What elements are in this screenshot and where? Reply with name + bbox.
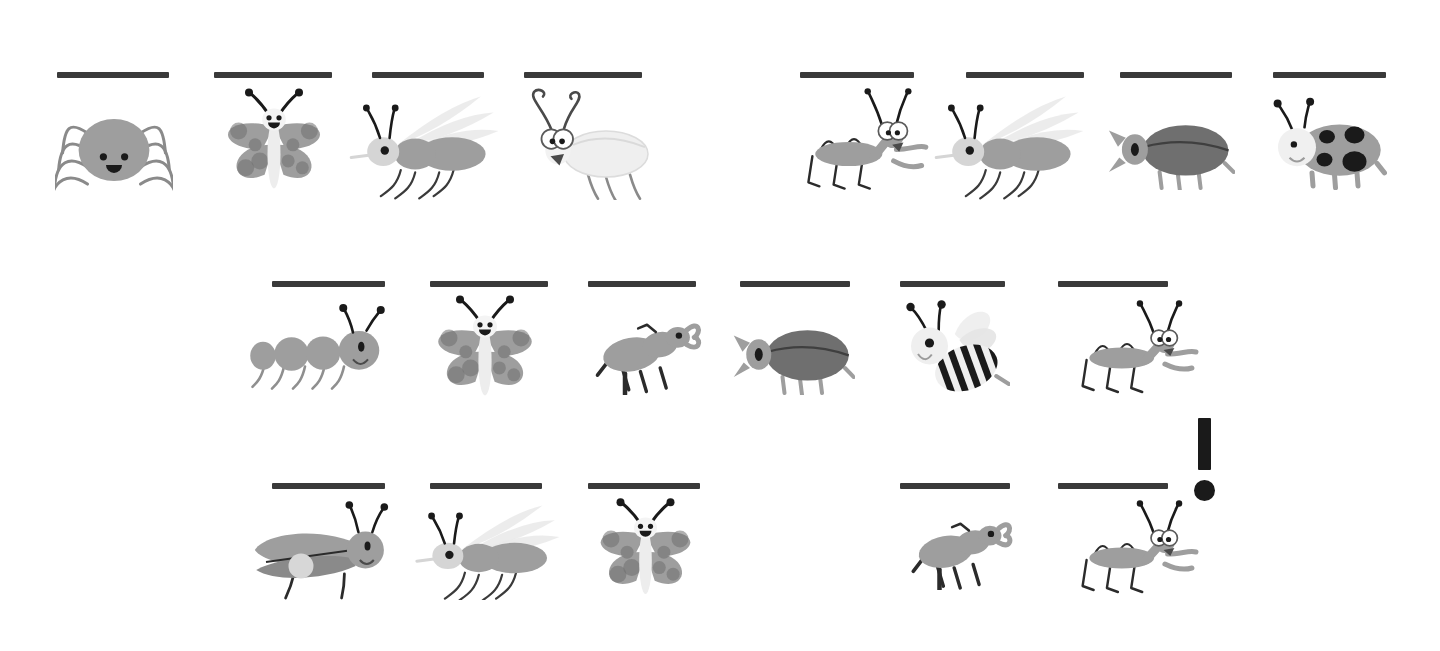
mosquito-illustration bbox=[925, 85, 1085, 200]
answer-blank-line[interactable] bbox=[430, 483, 542, 489]
answer-blank-line[interactable] bbox=[1273, 72, 1386, 78]
butterfly-illustration bbox=[215, 85, 333, 200]
answer-blank-line[interactable] bbox=[588, 281, 696, 287]
stag-beetle-illustration bbox=[592, 305, 702, 395]
exclamation-bar bbox=[1198, 418, 1211, 470]
answer-blank-line[interactable] bbox=[900, 281, 1005, 287]
answer-blank-line[interactable] bbox=[1120, 72, 1232, 78]
answer-blank-line[interactable] bbox=[272, 281, 385, 287]
exclamation-dot bbox=[1194, 480, 1215, 501]
answer-blank-line[interactable] bbox=[272, 483, 385, 489]
answer-blank-line[interactable] bbox=[430, 281, 548, 287]
bee-illustration bbox=[895, 298, 1010, 398]
firefly-illustration bbox=[252, 500, 392, 600]
grasshopper-illustration bbox=[1065, 298, 1200, 398]
mosquito-illustration bbox=[406, 495, 561, 600]
grasshopper-illustration bbox=[1065, 498, 1200, 598]
answer-blank-line[interactable] bbox=[800, 72, 914, 78]
answer-blank-line[interactable] bbox=[588, 483, 700, 489]
answer-blank-line[interactable] bbox=[740, 281, 850, 287]
cricket-illustration bbox=[510, 85, 660, 200]
answer-blank-line[interactable] bbox=[524, 72, 642, 78]
grasshopper-illustration bbox=[790, 85, 930, 200]
answer-blank-line[interactable] bbox=[57, 72, 169, 78]
butterfly-illustration bbox=[588, 495, 703, 605]
worksheet-sheet bbox=[0, 0, 1440, 651]
ladybug-illustration bbox=[1262, 95, 1387, 190]
spider-illustration bbox=[55, 95, 173, 195]
answer-blank-line[interactable] bbox=[1058, 483, 1168, 489]
answer-blank-line[interactable] bbox=[966, 72, 1084, 78]
stag-beetle-illustration bbox=[908, 505, 1013, 590]
mosquito-illustration bbox=[340, 85, 500, 200]
answer-blank-line[interactable] bbox=[372, 72, 484, 78]
answer-blank-line[interactable] bbox=[214, 72, 332, 78]
beetle-illustration bbox=[1105, 100, 1235, 190]
answer-blank-line[interactable] bbox=[1058, 281, 1168, 287]
caterpillar-illustration bbox=[245, 300, 395, 390]
answer-blank-line[interactable] bbox=[900, 483, 1010, 489]
butterfly-illustration bbox=[425, 292, 545, 407]
beetle-illustration bbox=[730, 305, 855, 395]
